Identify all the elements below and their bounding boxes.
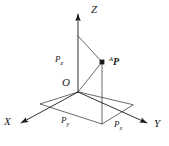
diagram-canvas <box>0 0 169 146</box>
component-pz-subscript: z <box>61 59 64 66</box>
point-P-label: AP <box>109 56 119 67</box>
y-axis-label: Y <box>154 118 160 129</box>
point-P-marker <box>100 60 105 65</box>
y-axis-line <box>78 92 147 123</box>
component-pz-label: Pz <box>55 55 63 66</box>
pz-to-p-line <box>78 36 102 62</box>
x-axis-label: X <box>4 116 11 127</box>
origin-to-p-vector <box>78 62 102 92</box>
component-py-label: Py <box>61 116 69 127</box>
component-px-subscript: x <box>120 124 123 131</box>
point-P-symbol: P <box>113 56 119 67</box>
component-px-label: Px <box>114 120 122 131</box>
component-py-subscript: y <box>67 120 70 127</box>
origin-label: O <box>62 77 70 88</box>
x-axis-line <box>21 92 78 123</box>
z-axis-label: Z <box>91 4 97 15</box>
coordinate-frame-figure: Z X Y O Pz Py Px AP <box>0 0 169 146</box>
